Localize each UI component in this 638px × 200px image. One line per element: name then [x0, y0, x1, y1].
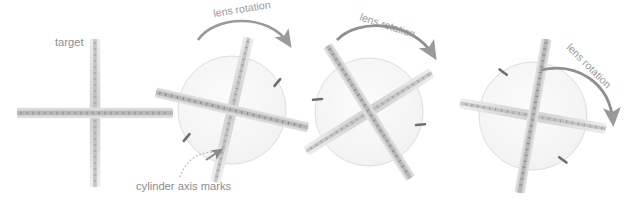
target-label: target — [55, 36, 84, 48]
panel-target: target — [17, 36, 173, 187]
lens-rotation-label-1: lens rotation — [212, 0, 271, 19]
diagram-canvas: target lens rotation — [0, 0, 638, 200]
target-cross — [17, 39, 173, 187]
lens-cross-2 — [265, 7, 473, 200]
panel-lens-3: lens rotation — [447, 26, 620, 200]
target-cross-horizontal-bar — [17, 108, 173, 118]
lens-rotation-figure: target lens rotation — [0, 0, 638, 200]
cylinder-axis-marks-label: cylinder axis marks — [136, 180, 232, 192]
panel-lens-1: lens rotation — [139, 0, 324, 200]
lens-cross-3 — [447, 26, 620, 200]
panel-lens-2: lens rotation — [265, 7, 473, 200]
